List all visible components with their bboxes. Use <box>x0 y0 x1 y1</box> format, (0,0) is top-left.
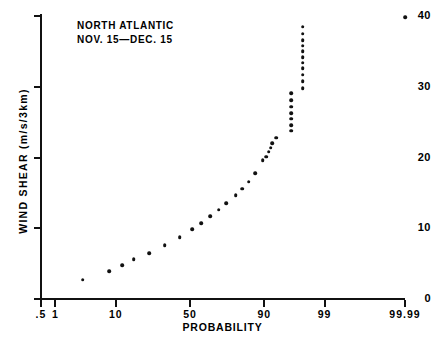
data-point <box>301 73 305 77</box>
data-points-layer <box>0 0 431 338</box>
data-point <box>190 227 194 231</box>
data-point <box>81 278 85 282</box>
data-point <box>264 155 268 159</box>
y-axis-tick <box>34 15 40 17</box>
data-point <box>290 91 294 95</box>
y-axis-title: WIND SHEAR (m/s/3km) <box>17 46 29 276</box>
data-point <box>132 258 136 262</box>
data-point <box>261 159 265 163</box>
data-point <box>269 146 273 150</box>
x-axis-tick <box>54 300 56 307</box>
x-axis-tick <box>189 300 191 307</box>
data-point <box>301 79 305 83</box>
data-point <box>217 208 221 212</box>
x-axis-tick <box>324 300 326 307</box>
data-point <box>247 180 251 184</box>
x-axis-tick-label: 1 <box>52 309 59 320</box>
data-point <box>301 50 305 54</box>
data-point <box>267 150 271 154</box>
x-axis-spine <box>40 298 405 300</box>
y-axis-tick <box>34 86 40 88</box>
data-point <box>225 202 229 206</box>
data-point <box>290 117 294 121</box>
annotation-line-region: NORTH ATLANTIC <box>77 19 174 33</box>
data-point <box>290 105 294 109</box>
y-axis-tick <box>34 227 40 229</box>
y-axis-tick-label: 20 <box>401 152 431 163</box>
x-axis-tick-label: 99 <box>318 309 332 320</box>
data-point <box>301 32 305 36</box>
data-point <box>301 61 305 65</box>
x-axis-tick-label: 90 <box>257 309 271 320</box>
data-point <box>301 25 305 29</box>
data-point <box>290 111 294 115</box>
data-point <box>234 193 238 197</box>
y-axis-tick-label: 30 <box>401 81 431 92</box>
x-axis-tick <box>263 300 265 307</box>
x-axis-title: PROBABILITY <box>40 321 405 333</box>
x-axis-tick-label: .5 <box>36 309 47 320</box>
x-axis-tick-label: 99.99 <box>389 309 420 320</box>
data-point <box>301 38 305 42</box>
data-point <box>301 55 305 59</box>
data-point <box>301 86 305 90</box>
y-axis-tick-label: 10 <box>401 222 431 233</box>
data-point <box>240 187 244 191</box>
data-point <box>290 123 294 127</box>
y-axis-tick <box>34 157 40 159</box>
data-point <box>199 222 203 226</box>
y-axis-tick-label: 40 <box>401 10 431 21</box>
x-axis-tick <box>115 300 117 307</box>
data-point <box>108 270 112 274</box>
wind-shear-probability-chart: 010203040 .511050909999.99 WIND SHEAR (m… <box>0 0 431 338</box>
chart-annotation: NORTH ATLANTIC NOV. 15—DEC. 15 <box>77 19 174 47</box>
x-axis-tick <box>40 300 42 307</box>
data-point <box>253 171 257 175</box>
data-point <box>208 214 212 218</box>
data-point <box>270 142 274 146</box>
data-point <box>178 236 182 240</box>
data-point <box>120 263 124 267</box>
data-point <box>301 44 305 48</box>
data-point <box>147 251 151 255</box>
y-axis-spine <box>40 14 42 300</box>
x-axis-tick-label: 50 <box>183 309 197 320</box>
data-point <box>290 129 294 133</box>
data-point <box>163 243 167 247</box>
data-point <box>290 98 294 102</box>
x-axis-tick-label: 10 <box>109 309 123 320</box>
data-point <box>275 136 279 140</box>
annotation-line-period: NOV. 15—DEC. 15 <box>77 33 174 47</box>
data-point <box>301 67 305 71</box>
x-axis-tick <box>404 300 406 307</box>
